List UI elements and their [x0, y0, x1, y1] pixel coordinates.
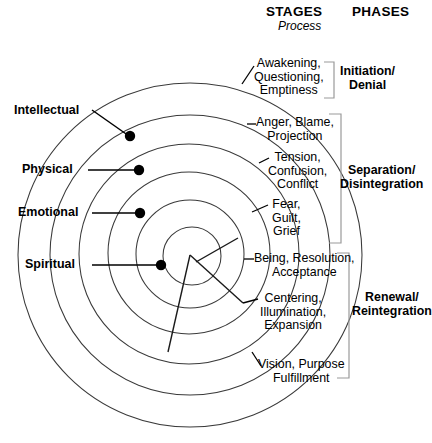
stage-tension-line-3: Conflict	[268, 178, 327, 192]
stage-vision-line-2: Fulfillment	[258, 372, 345, 386]
stage-anger: Anger, Blame, Projection	[256, 116, 334, 143]
leader-intellectual	[92, 110, 129, 136]
phase-renewal-line-2: Reintegration	[352, 305, 432, 319]
stage-fear: Fear, Guilt, Grief	[272, 198, 301, 239]
phase-renewal-line-1: Renewal/	[352, 291, 432, 305]
stage-awakening-line-2: Questioning,	[254, 71, 324, 85]
stage-being-line-2: Acceptance	[254, 266, 355, 280]
stage-fear-line-1: Fear,	[272, 198, 301, 212]
stage-being: Being, Resolution, Acceptance	[254, 252, 355, 279]
stage-vision: Vision, Purpose Fulfillment	[258, 358, 345, 385]
stage-vision-line-1: Vision, Purpose	[258, 358, 345, 372]
stage-tension-line-1: Tension,	[268, 151, 327, 165]
dimension-label-emotional: Emotional	[18, 205, 78, 219]
phase-separation-line-2: Disintegration	[340, 178, 423, 192]
dimension-label-spiritual: Spiritual	[25, 257, 75, 271]
stage-fear-line-3: Grief	[272, 225, 301, 239]
tick-centering	[243, 299, 258, 303]
phase-initiation-line-1: Initiation/	[340, 65, 395, 79]
stage-centering-line-2: Illumination,	[260, 306, 326, 320]
dimension-label-physical: Physical	[22, 162, 73, 176]
phase-initiation-denial: Initiation/ Denial	[340, 65, 395, 92]
stages-header: STAGES	[266, 4, 322, 19]
ring-inner-1	[136, 200, 244, 308]
stage-awakening-line-1: Awakening,	[254, 57, 324, 71]
phase-separation-line-1: Separation/	[340, 164, 423, 178]
dot-intellectual	[125, 131, 135, 141]
stage-awakening: Awakening, Questioning, Emptiness	[254, 57, 324, 98]
dot-emotional	[135, 208, 145, 218]
stage-tension: Tension, Confusion, Conflict	[268, 151, 327, 192]
stage-anger-line-1: Anger, Blame,	[256, 116, 334, 130]
bracket-initiation	[324, 62, 334, 98]
phase-initiation-line-2: Denial	[340, 79, 395, 93]
radial-line-2	[190, 255, 243, 303]
ring-mid-2	[108, 172, 270, 334]
stage-being-line-1: Being, Resolution,	[254, 252, 355, 266]
radial-line-1	[168, 255, 190, 352]
dot-spiritual	[156, 260, 166, 270]
stage-centering: Centering, Illumination, Expansion	[260, 292, 326, 333]
dimension-label-intellectual: Intellectual	[14, 103, 79, 117]
tick-awakening	[242, 66, 254, 84]
phases-header: PHASES	[352, 4, 409, 19]
stage-awakening-line-3: Emptiness	[254, 84, 324, 98]
phase-renewal-reintegration: Renewal/ Reintegration	[352, 291, 432, 318]
dot-physical	[134, 165, 144, 175]
stages-subheader: Process	[278, 19, 321, 33]
stage-fear-line-2: Guilt,	[272, 212, 301, 226]
stage-centering-line-1: Centering,	[260, 292, 326, 306]
stage-anger-line-2: Projection	[256, 130, 334, 144]
phase-separation-disintegration: Separation/ Disintegration	[340, 164, 423, 191]
stage-tension-line-2: Confusion,	[268, 165, 327, 179]
stage-centering-line-3: Expansion	[260, 319, 326, 333]
